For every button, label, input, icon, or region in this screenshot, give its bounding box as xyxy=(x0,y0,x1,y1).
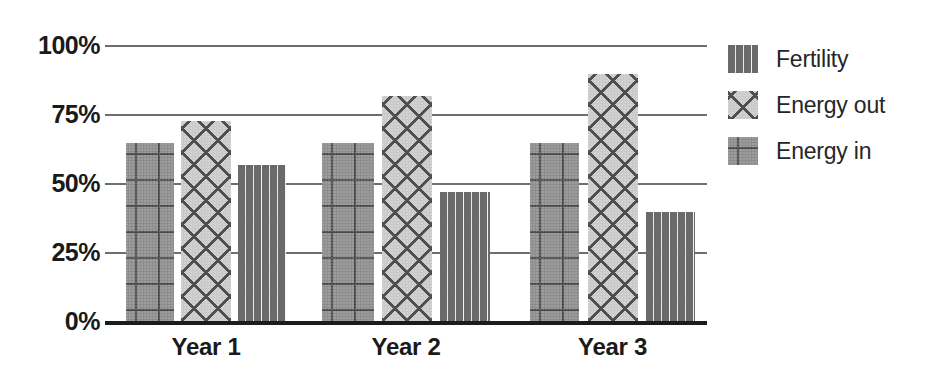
legend-item-energy-in: Energy in xyxy=(728,128,928,174)
legend-item-fertility: Fertility xyxy=(728,36,928,82)
bar-fertility-year-2 xyxy=(440,192,490,322)
bar-energy-out-year-3 xyxy=(588,74,638,322)
x-tick-label-year-2: Year 2 xyxy=(322,334,490,360)
bar-energy-in-year-1 xyxy=(126,143,174,322)
bar-energy-out-year-2 xyxy=(382,96,432,322)
bar-fertility-year-3 xyxy=(646,212,695,322)
legend: Fertility Energy out Energy in xyxy=(728,36,928,174)
legend-swatch-energy-in-icon xyxy=(728,137,758,165)
x-axis-line xyxy=(105,321,707,325)
bar-energy-out-year-1 xyxy=(181,121,231,322)
bar-energy-in-year-3 xyxy=(530,143,579,322)
legend-item-energy-out: Energy out xyxy=(728,82,928,128)
legend-label-fertility: Fertility xyxy=(776,48,848,71)
legend-swatch-energy-out-icon xyxy=(728,91,758,119)
bar-energy-in-year-2 xyxy=(322,143,374,322)
legend-label-energy-out: Energy out xyxy=(776,94,885,117)
bar-chart: 100% 75% 50% 25% 0% Year 1 Year 2 Year 3… xyxy=(0,0,932,381)
legend-swatch-fertility-icon xyxy=(728,45,758,73)
x-tick-label-year-1: Year 1 xyxy=(126,334,286,360)
legend-label-energy-in: Energy in xyxy=(776,140,871,163)
bar-fertility-year-1 xyxy=(238,165,286,322)
x-tick-label-year-3: Year 3 xyxy=(530,334,695,360)
